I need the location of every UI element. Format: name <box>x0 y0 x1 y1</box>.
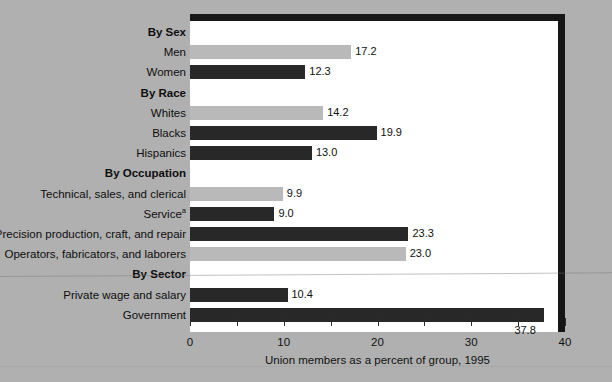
bar-chart-figure: 17.212.314.219.913.09.99.023.323.010.437… <box>0 0 612 382</box>
axis-tick-label: 30 <box>465 336 478 348</box>
x-axis-title: Union members as a percent of group, 199… <box>190 354 565 366</box>
bar <box>190 207 274 221</box>
bar-row: 17.2 <box>190 45 565 59</box>
bar <box>190 288 288 302</box>
bar <box>190 247 406 261</box>
bar-row: 13.0 <box>190 146 565 160</box>
x-axis-tick-labels: 010203040 <box>0 336 612 352</box>
axis-tick <box>378 318 379 326</box>
bar-row: 23.3 <box>190 227 565 241</box>
category-label: Women <box>147 65 186 79</box>
axis-tick <box>331 318 332 326</box>
axis-tick <box>284 318 285 326</box>
x-axis-ticks <box>190 318 565 332</box>
category-label: Men <box>164 45 186 59</box>
bar-row: 19.9 <box>190 126 565 140</box>
bar-value-label: 13.0 <box>316 145 337 159</box>
bar <box>190 187 283 201</box>
bar <box>190 45 351 59</box>
axis-tick-label: 40 <box>559 336 572 348</box>
axis-tick <box>237 318 238 326</box>
category-label: Technical, sales, and clerical <box>40 187 186 201</box>
bar <box>190 227 408 241</box>
bar-value-label: 19.9 <box>381 125 402 139</box>
bar-value-label: 23.3 <box>412 226 433 240</box>
group-heading: By Race <box>141 86 186 100</box>
bar-value-label: 17.2 <box>355 44 376 58</box>
axis-tick <box>424 318 425 326</box>
category-label: Private wage and salary <box>63 288 186 302</box>
bar-value-label: 23.0 <box>410 246 431 260</box>
bar-row: 10.4 <box>190 288 565 302</box>
category-label: Government <box>123 308 186 322</box>
group-heading: By Sex <box>148 25 186 39</box>
axis-tick-label: 10 <box>277 336 290 348</box>
bar-value-label: 9.0 <box>278 206 293 220</box>
category-label: Whites <box>151 106 186 120</box>
category-label: Servicea <box>143 207 186 221</box>
footnote-marker: a <box>182 206 186 215</box>
bar-row: 9.0 <box>190 207 565 221</box>
axis-tick <box>518 318 519 326</box>
bar-row: 12.3 <box>190 65 565 79</box>
plot-area <box>190 14 565 332</box>
axis-tick <box>471 318 472 326</box>
axis-tick-label: 20 <box>371 336 384 348</box>
bar-value-label: 12.3 <box>309 64 330 78</box>
category-label: Precision production, craft, and repair <box>0 227 186 241</box>
category-label: Blacks <box>152 126 186 140</box>
category-label: Hispanics <box>136 146 186 160</box>
category-label: Operators, fabricators, and laborers <box>4 247 186 261</box>
axis-tick-label: 0 <box>187 336 193 348</box>
bar-row: 23.0 <box>190 247 565 261</box>
group-heading: By Occupation <box>105 166 186 180</box>
bar-value-label: 9.9 <box>287 186 302 200</box>
axis-tick <box>190 318 191 326</box>
bar <box>190 106 323 120</box>
group-heading: By Sector <box>132 267 186 281</box>
bar <box>190 146 312 160</box>
bar-value-label: 14.2 <box>327 105 348 119</box>
bar-row: 14.2 <box>190 106 565 120</box>
bar <box>190 65 305 79</box>
bar <box>190 126 377 140</box>
bar-row: 9.9 <box>190 187 565 201</box>
axis-tick <box>565 318 566 326</box>
bar-value-label: 10.4 <box>292 287 313 301</box>
